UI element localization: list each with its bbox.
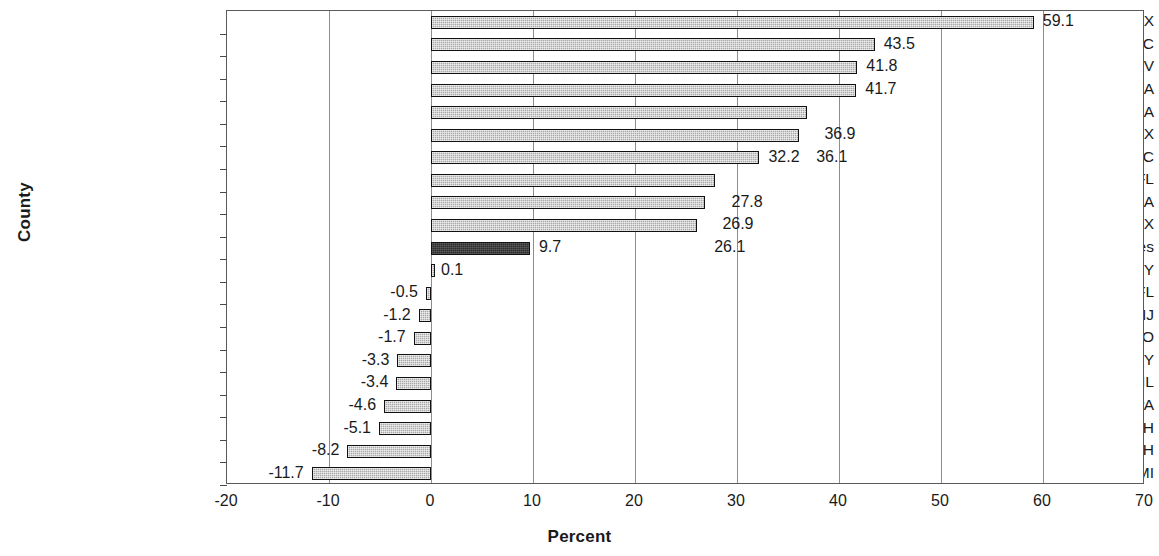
bar bbox=[431, 242, 530, 255]
value-label: -4.6 bbox=[349, 397, 377, 413]
y-tickmark bbox=[220, 259, 227, 260]
y-tickmark bbox=[220, 372, 227, 373]
bar bbox=[431, 61, 857, 74]
y-tickmark bbox=[220, 124, 227, 125]
bar bbox=[414, 332, 431, 345]
value-label: -11.7 bbox=[268, 465, 303, 481]
x-axis-title: Percent bbox=[0, 527, 1159, 547]
value-label: 27.8 bbox=[732, 194, 763, 210]
x-tick-label: 50 bbox=[910, 492, 970, 510]
value-label: 41.8 bbox=[866, 58, 897, 74]
y-tickmark bbox=[220, 304, 227, 305]
bar bbox=[431, 84, 856, 97]
y-tickmark bbox=[220, 395, 227, 396]
y-tickmark bbox=[220, 350, 227, 351]
y-tickmark bbox=[220, 56, 227, 57]
y-tickmark bbox=[220, 192, 227, 193]
bar bbox=[419, 309, 431, 322]
value-label: 59.1 bbox=[1043, 13, 1074, 29]
value-label: -1.7 bbox=[378, 329, 406, 345]
bar bbox=[431, 38, 875, 51]
gridline bbox=[839, 11, 840, 483]
bar bbox=[312, 467, 431, 480]
bar bbox=[431, 196, 705, 209]
value-label: 9.7 bbox=[539, 239, 561, 255]
x-tick-label: 70 bbox=[1114, 492, 1159, 510]
y-tickmark bbox=[220, 440, 227, 441]
y-tickmark bbox=[220, 327, 227, 328]
y-tickmark bbox=[220, 462, 227, 463]
x-tick-label: 10 bbox=[502, 492, 562, 510]
x-tick-label: 20 bbox=[604, 492, 664, 510]
bar bbox=[431, 129, 799, 142]
x-tick-label: 40 bbox=[808, 492, 868, 510]
y-tickmark bbox=[220, 282, 227, 283]
x-tick-label: -20 bbox=[196, 492, 256, 510]
value-label: 36.9 bbox=[824, 126, 855, 142]
y-tickmark bbox=[220, 79, 227, 80]
bar bbox=[431, 16, 1034, 29]
bar bbox=[396, 377, 431, 390]
gridline bbox=[941, 11, 942, 483]
value-label: 36.1 bbox=[816, 149, 847, 165]
x-tick-label: 60 bbox=[1012, 492, 1072, 510]
y-axis-title: County bbox=[15, 167, 39, 257]
horizontal-bar-chart: County Collin, TXWake, NCClark, NVRivers… bbox=[0, 0, 1159, 556]
bar bbox=[379, 422, 431, 435]
y-tickmark bbox=[220, 146, 227, 147]
value-label: 41.7 bbox=[865, 81, 896, 97]
y-tickmark bbox=[220, 417, 227, 418]
bar bbox=[431, 219, 697, 232]
value-label: -3.3 bbox=[362, 352, 390, 368]
value-label: -0.5 bbox=[390, 284, 418, 300]
bar bbox=[397, 354, 431, 367]
value-label: 26.9 bbox=[722, 216, 753, 232]
bar bbox=[426, 287, 431, 300]
x-tick-label: 30 bbox=[706, 492, 766, 510]
value-label: 26.1 bbox=[714, 239, 745, 255]
bar bbox=[431, 151, 759, 164]
bar bbox=[347, 445, 431, 458]
gridline bbox=[635, 11, 636, 483]
value-label: -3.4 bbox=[361, 374, 389, 390]
value-label: 0.1 bbox=[441, 262, 463, 278]
bar bbox=[384, 400, 431, 413]
value-label: -5.1 bbox=[343, 420, 371, 436]
y-tickmark bbox=[220, 101, 227, 102]
bar bbox=[431, 174, 715, 187]
bar bbox=[431, 264, 435, 277]
y-tickmark bbox=[220, 214, 227, 215]
y-tickmark bbox=[220, 169, 227, 170]
x-tick-label: 0 bbox=[400, 492, 460, 510]
x-tick-label: -10 bbox=[298, 492, 358, 510]
value-label: -1.2 bbox=[383, 307, 411, 323]
y-tickmark bbox=[220, 34, 227, 35]
gridline bbox=[1043, 11, 1044, 483]
value-label: 32.2 bbox=[768, 149, 799, 165]
value-label: -8.2 bbox=[312, 442, 340, 458]
bar bbox=[431, 106, 807, 119]
gridline bbox=[329, 11, 330, 483]
value-label: 43.5 bbox=[884, 36, 915, 52]
y-tickmark bbox=[220, 485, 227, 486]
y-tickmark bbox=[220, 237, 227, 238]
gridline bbox=[533, 11, 534, 483]
